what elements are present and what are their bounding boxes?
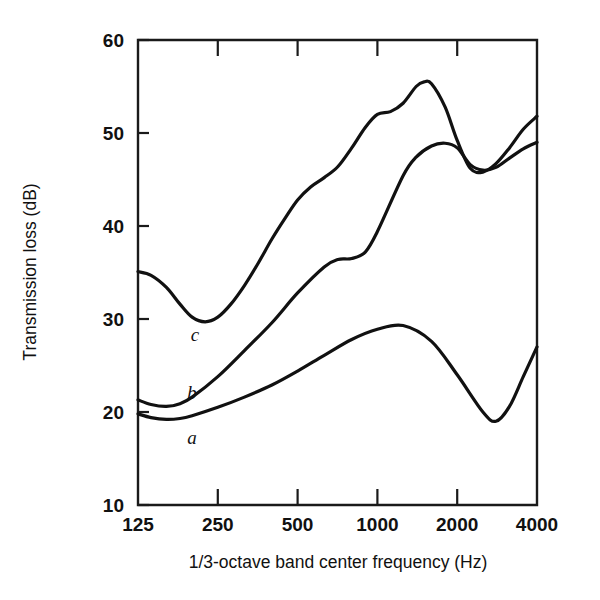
data-curve-b [138, 142, 537, 406]
plot-frame [138, 40, 537, 505]
x-axis-tick-label: 4000 [516, 514, 558, 535]
y-axis-tick-labels: 102030405060 [103, 30, 124, 516]
y-axis-title: Transmission loss (dB) [20, 183, 40, 360]
curve-label-c: c [191, 324, 200, 345]
x-axis-tick-label: 500 [282, 514, 314, 535]
chart-canvas: 102030405060 125250500100020004000 abc T… [0, 0, 600, 600]
y-axis-tick-label: 10 [103, 495, 124, 516]
x-axis-tick-label: 2000 [436, 514, 478, 535]
data-curve-c [138, 81, 537, 322]
y-axis-tick-label: 40 [103, 216, 124, 237]
y-axis-tick-label: 30 [103, 309, 124, 330]
x-axis-tick-label: 125 [122, 514, 154, 535]
data-curves [138, 81, 537, 421]
x-axis-tick-label: 1000 [356, 514, 398, 535]
curve-series-labels: abc [187, 324, 199, 447]
curve-label-b: b [187, 382, 197, 403]
y-axis-tick-label: 60 [103, 30, 124, 51]
transmission-loss-chart-figure: 102030405060 125250500100020004000 abc T… [0, 0, 600, 600]
x-axis-tick-label: 250 [202, 514, 234, 535]
y-axis-tick-label: 20 [103, 402, 124, 423]
x-axis-title: 1/3-octave band center frequency (Hz) [189, 552, 488, 572]
axis-frame [138, 40, 537, 505]
y-axis-tick-label: 50 [103, 123, 124, 144]
curve-label-a: a [187, 427, 197, 448]
x-axis-tick-labels: 125250500100020004000 [122, 514, 558, 535]
